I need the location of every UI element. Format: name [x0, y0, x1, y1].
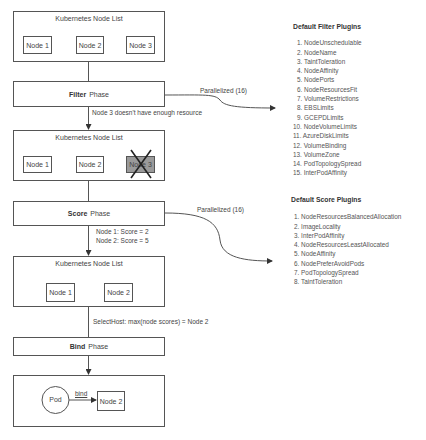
list-item: 6. NodePreferAvoidPods	[291, 259, 401, 268]
node-list-title: Kubernetes Node List	[14, 134, 164, 141]
node-list-box-3: Kubernetes Node List Node 1 Node 2	[13, 256, 165, 307]
list-item: 8. TaintToleration	[291, 277, 401, 286]
list-item: 4. NodeAffinity	[293, 66, 362, 75]
list-item: 11. AzureDiskLimits	[293, 131, 362, 140]
node-list-title: Kubernetes Node List	[14, 15, 164, 22]
pod-label[interactable]: Pod	[42, 396, 69, 403]
list-item: 15. InterPodAffinity	[293, 168, 362, 177]
list-item: 13. VolumeZone	[293, 150, 362, 159]
list-item: 1. NodeResourcesBalancedAllocation	[291, 212, 401, 221]
phase-name: Score	[68, 210, 87, 217]
bound-node[interactable]: Node 2	[97, 391, 125, 411]
score-plugins-title: Default Score Plugins	[291, 195, 401, 204]
score-plugins-list: 1. NodeResourcesBalancedAllocation 2. Im…	[291, 212, 401, 286]
score-phase[interactable]: Score Phase	[13, 201, 165, 226]
list-item: 8. EBSLimits	[293, 103, 362, 112]
node-1[interactable]: Node 1	[46, 283, 75, 302]
node-3-eliminated[interactable]: Node 3	[126, 156, 155, 173]
phase-suffix: Phase	[88, 343, 108, 350]
bind-result-box	[13, 375, 165, 427]
node-2[interactable]: Node 2	[76, 156, 104, 173]
list-item: 3. InterPodAffinity	[291, 231, 401, 240]
node-list-box-2: Kubernetes Node List Node 1 Node 2 Node …	[13, 130, 165, 181]
list-item: 5. NodePorts	[293, 75, 362, 84]
list-item: 3. TaintToleration	[293, 57, 362, 66]
list-item: 14. PodTopologySpread	[293, 159, 362, 168]
node-3[interactable]: Node 3	[126, 36, 155, 54]
list-item: 10. NodeVolumeLimits	[293, 122, 362, 131]
bind-phase[interactable]: Bind Phase	[13, 337, 165, 356]
score-parallel-arrow	[165, 213, 272, 261]
phase-suffix: Phase	[89, 91, 109, 98]
list-item: 12. VolumeBinding	[293, 141, 362, 150]
list-item: 2. ImageLocality	[291, 222, 401, 231]
filter-plugins-title: Default Filter Plugins	[293, 22, 362, 31]
node-2[interactable]: Node 2	[104, 283, 133, 302]
list-item: 4. NodeResourcesLeastAllocated	[291, 240, 401, 249]
filter-parallel-label: Parallelized (16)	[200, 87, 247, 94]
score-result-1: Node 1: Score = 2	[96, 228, 149, 235]
filter-plugins-panel: Default Filter Plugins 1. NodeUnschedula…	[293, 22, 362, 178]
node-2[interactable]: Node 2	[76, 36, 104, 54]
score-result-2: Node 2: Score = 5	[96, 237, 149, 244]
filter-result-label: Node 3 doesn't have enough resource	[92, 109, 202, 116]
list-item: 7. PodTopologySpread	[291, 268, 401, 277]
filter-phase[interactable]: Filter Phase	[13, 81, 165, 107]
list-item: 9. GCEPDLimits	[293, 113, 362, 122]
select-host-label: SelectHost: max(node scores) = Node 2	[93, 318, 208, 325]
score-parallel-label: Parallelized (16)	[197, 206, 244, 213]
list-item: 2. NodeName	[293, 48, 362, 57]
list-item: 5. NodeAffinity	[291, 249, 401, 258]
list-item: 1. NodeUnschedulable	[293, 38, 362, 47]
cross-icon	[126, 156, 155, 173]
list-item: 6. NodeResourcesFit	[293, 85, 362, 94]
phase-name: Bind	[70, 343, 86, 350]
node-1[interactable]: Node 1	[23, 36, 52, 54]
node-1[interactable]: Node 1	[23, 156, 52, 173]
list-item: 7. VolumeRestrictions	[293, 94, 362, 103]
filter-plugins-list: 1. NodeUnschedulable 2. NodeName 3. Tain…	[293, 38, 362, 177]
phase-name: Filter	[69, 91, 86, 98]
bind-edge-label: bind	[75, 390, 87, 397]
filter-parallel-arrow	[165, 95, 275, 108]
node-list-title: Kubernetes Node List	[14, 260, 164, 267]
score-plugins-panel: Default Score Plugins 1. NodeResourcesBa…	[291, 195, 401, 287]
phase-suffix: Phase	[90, 210, 110, 217]
node-list-box-1: Kubernetes Node List Node 1 Node 2 Node …	[13, 11, 165, 62]
